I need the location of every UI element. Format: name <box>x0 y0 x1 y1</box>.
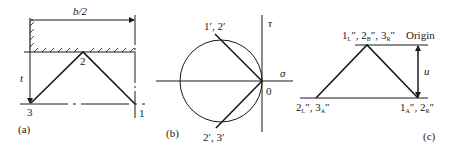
displacement-triangle <box>316 45 418 98</box>
caption-a: (a) <box>18 123 31 136</box>
node-1-label: 1 <box>139 107 145 119</box>
tau-axis-label: τ <box>268 17 273 29</box>
node-2-label: 2 <box>80 55 86 67</box>
origin-text: Origin <box>406 29 435 41</box>
u-label: u <box>424 65 430 77</box>
right-corner-label: 1A″, 2R″ <box>400 101 434 114</box>
figure: b/2 t 2 3 1 (a) 1′, 2′ τ σ 0 2′, 3′ (b) … <box>0 0 454 151</box>
top-point-label: 1′, 2′ <box>204 20 225 32</box>
caption-c: (c) <box>423 130 436 143</box>
caption-b: (b) <box>166 127 179 140</box>
panel-b <box>156 15 293 132</box>
thickness-label: t <box>20 72 24 84</box>
apex-label: 1L″, 2B″, 3R″ <box>342 29 395 42</box>
panel-c <box>300 45 428 98</box>
left-corner-label: 2L″, 3A″ <box>296 101 330 114</box>
bottom-point-label: 2′, 3′ <box>203 131 224 143</box>
node-3-label: 3 <box>27 106 33 118</box>
dimension-label: b/2 <box>73 5 88 17</box>
origin-label: 0 <box>266 85 272 97</box>
sigma-axis-label: σ <box>280 67 286 79</box>
